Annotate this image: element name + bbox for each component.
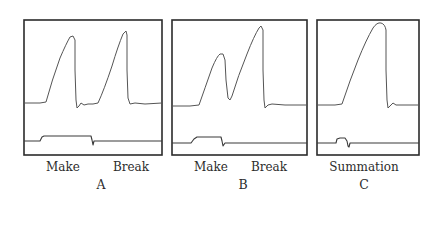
panel-a-letter: A <box>96 178 105 191</box>
panel-a-stimulus-trace <box>24 136 162 145</box>
panel-c-summation-label: Summation <box>329 161 398 174</box>
panel-c-frame <box>317 20 419 155</box>
panel-c-letter: C <box>359 178 369 191</box>
panel-b-break-label: Break <box>251 161 287 174</box>
panel-a-frame <box>24 20 162 155</box>
panel-a <box>24 20 162 155</box>
panel-b-muscle-trace <box>172 26 307 108</box>
panel-c-muscle-trace <box>317 23 419 108</box>
panel-b-letter: B <box>238 178 247 191</box>
panel-b-frame <box>172 20 307 155</box>
panel-a-break-label: Break <box>113 161 149 174</box>
panel-c <box>317 20 419 155</box>
panel-c-stimulus-trace <box>317 138 419 147</box>
panel-b-make-label: Make <box>194 161 228 174</box>
panel-b-stimulus-trace <box>172 137 307 146</box>
figure-canvas <box>0 0 443 243</box>
panel-a-muscle-trace <box>24 31 162 108</box>
panel-b <box>172 20 307 155</box>
panel-a-make-label: Make <box>46 161 80 174</box>
